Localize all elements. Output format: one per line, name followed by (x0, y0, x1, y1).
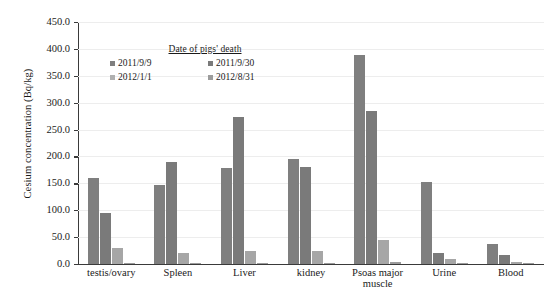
bar (445, 259, 456, 264)
x-axis-label: kidney (278, 267, 345, 289)
x-axis-label: testis/ovary (78, 267, 145, 289)
bar (88, 178, 99, 264)
bar (421, 182, 432, 264)
legend-item: 2012/8/31 (208, 72, 300, 82)
bar (354, 55, 365, 264)
bar (124, 263, 135, 264)
y-tick-label: 0.0 (26, 259, 70, 269)
y-tick-label: 100.0 (26, 205, 70, 215)
bar (233, 117, 244, 264)
legend-label: 2012/8/31 (216, 72, 255, 82)
legend-item: 2011/9/30 (208, 58, 300, 68)
bar (433, 253, 444, 264)
y-tick-label: 150.0 (26, 178, 70, 188)
bar (300, 167, 311, 264)
bar (100, 213, 111, 264)
bar (257, 263, 268, 264)
bar (112, 248, 123, 264)
x-axis-label: Blood (477, 267, 544, 289)
bar (166, 162, 177, 264)
y-tick-label: 400.0 (26, 44, 70, 54)
bar (154, 185, 165, 264)
y-tick-label: 450.0 (26, 17, 70, 27)
bar-group (477, 22, 544, 264)
bar (487, 244, 498, 264)
x-axis-label: Urine (411, 267, 478, 289)
legend-label: 2011/9/30 (216, 58, 254, 68)
legend-swatch (110, 75, 115, 80)
x-axis-labels: testis/ovarySpleenLiverkidneyPsoas major… (78, 267, 544, 289)
bar (366, 111, 377, 264)
x-axis-label: Liver (211, 267, 278, 289)
chart-legend: Date of pigs' death 2011/9/92011/9/30201… (110, 44, 300, 82)
legend-item: 2011/9/9 (110, 58, 202, 68)
legend-swatch (208, 75, 213, 80)
bar (499, 255, 510, 264)
legend-title: Date of pigs' death (110, 44, 300, 54)
legend-swatch (208, 61, 213, 66)
bar-group (344, 22, 411, 264)
bar (457, 263, 468, 264)
legend-label: 2012/1/1 (118, 72, 152, 82)
bar (511, 262, 522, 264)
bar (378, 240, 389, 264)
bar (245, 251, 256, 264)
x-axis-line (78, 264, 544, 265)
bar (324, 263, 335, 264)
bar (190, 263, 201, 264)
legend-label: 2011/9/9 (118, 58, 151, 68)
y-tick-label: 200.0 (26, 151, 70, 161)
bar (523, 263, 534, 264)
legend-swatch (110, 61, 115, 66)
bar (288, 159, 299, 264)
legend-item: 2012/1/1 (110, 72, 202, 82)
y-tick-mark (74, 264, 78, 265)
cesium-concentration-bar-chart: Cesium concentration (Bq/kg) 450.0400.03… (0, 0, 554, 299)
bar (312, 251, 323, 264)
y-tick-label: 250.0 (26, 125, 70, 135)
x-axis-label: Spleen (145, 267, 212, 289)
bar (221, 168, 232, 264)
bar-group (411, 22, 478, 264)
bar (390, 262, 401, 264)
y-tick-label: 300.0 (26, 98, 70, 108)
y-tick-label: 350.0 (26, 71, 70, 81)
legend-entries: 2011/9/92011/9/302012/1/12012/8/31 (110, 58, 300, 82)
y-tick-label: 50.0 (26, 232, 70, 242)
x-axis-label: Psoas major muscle (344, 267, 411, 289)
bar (178, 253, 189, 264)
